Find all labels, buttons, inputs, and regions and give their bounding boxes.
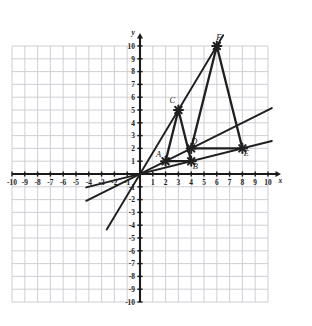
line-slope-five-thirds bbox=[107, 35, 223, 229]
point-label-C: C bbox=[170, 96, 176, 105]
y-tick-label: -5 bbox=[129, 234, 135, 243]
x-tick-label: -9 bbox=[22, 178, 28, 187]
y-tick-label: 3 bbox=[131, 131, 135, 140]
coordinate-plane-figure: -10-9-8-7-6-5-4-3-2-11234567891010987654… bbox=[0, 0, 312, 326]
point-label-A: A bbox=[155, 150, 162, 159]
axes bbox=[12, 33, 281, 302]
x-tick-label: 7 bbox=[228, 178, 232, 187]
y-tick-label: -10 bbox=[125, 298, 135, 307]
y-tick-label: -8 bbox=[129, 272, 135, 281]
point-marker-A bbox=[161, 157, 170, 166]
y-tick-label: -6 bbox=[129, 247, 135, 256]
x-tick-label: 4 bbox=[189, 178, 193, 187]
point-label-E: E bbox=[243, 149, 249, 158]
x-tick-label: 9 bbox=[253, 178, 257, 187]
x-tick-label: 6 bbox=[215, 178, 219, 187]
y-tick-label: 5 bbox=[131, 106, 135, 115]
x-tick-label: -10 bbox=[7, 178, 17, 187]
plot-svg: -10-9-8-7-6-5-4-3-2-11234567891010987654… bbox=[0, 0, 312, 326]
y-tick-label: -9 bbox=[129, 285, 135, 294]
point-label-B: B bbox=[193, 162, 198, 171]
y-tick-label: 6 bbox=[131, 93, 135, 102]
y-tick-label: 4 bbox=[131, 119, 135, 128]
y-tick-label: 2 bbox=[131, 144, 135, 153]
x-tick-label: 1 bbox=[151, 178, 155, 187]
y-axis-label: y bbox=[131, 28, 136, 37]
x-tick-label: -6 bbox=[60, 178, 66, 187]
point-marker-F bbox=[212, 41, 221, 50]
x-tick-label: 3 bbox=[177, 178, 181, 187]
point-label-F: F bbox=[215, 33, 222, 42]
y-tick-label: 8 bbox=[131, 67, 135, 76]
x-tick-label: -5 bbox=[73, 178, 79, 187]
point-marker-C bbox=[174, 105, 183, 114]
y-tick-label: -3 bbox=[129, 208, 135, 217]
x-tick-label: 10 bbox=[264, 178, 272, 187]
y-tick-label: -4 bbox=[129, 221, 135, 230]
x-axis-label: x bbox=[278, 176, 283, 185]
y-tick-label: -7 bbox=[129, 259, 135, 268]
x-tick-label: 2 bbox=[164, 178, 168, 187]
x-tick-label: -7 bbox=[47, 178, 53, 187]
y-tick-label: 9 bbox=[131, 55, 135, 64]
point-label-D: D bbox=[190, 137, 197, 146]
x-tick-label: 8 bbox=[241, 178, 245, 187]
y-tick-label: 7 bbox=[131, 80, 135, 89]
x-tick-label: -8 bbox=[35, 178, 41, 187]
y-tick-label: 10 bbox=[128, 42, 136, 51]
x-tick-label: 5 bbox=[202, 178, 206, 187]
y-tick-label: -2 bbox=[129, 195, 135, 204]
y-tick-label: 1 bbox=[131, 157, 135, 166]
